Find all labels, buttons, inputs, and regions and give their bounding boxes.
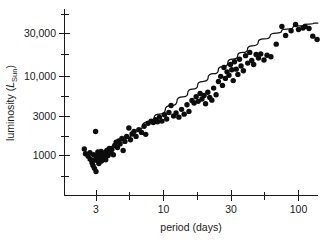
data-point — [133, 134, 138, 139]
data-point — [293, 22, 298, 27]
data-point — [238, 63, 243, 68]
y-axis-title-prefix: luminosity ( — [4, 87, 16, 141]
data-point — [221, 65, 226, 70]
y-axis-title-suffix: ) — [4, 65, 16, 69]
x-tick-label-30: 30 — [225, 203, 237, 215]
data-point — [122, 139, 127, 144]
y-tick-label-30000: 30,000 — [24, 27, 56, 39]
svg-text:luminosity (LSun): luminosity (LSun) — [4, 65, 19, 141]
y-tick-label-10000: 10,000 — [24, 70, 56, 82]
y-tick-label-3000: 3000 — [33, 110, 57, 122]
data-point — [220, 83, 225, 88]
data-point — [237, 56, 242, 61]
x-tick-label-3: 3 — [93, 203, 99, 215]
data-point — [181, 111, 186, 116]
data-point — [247, 50, 252, 55]
data-point — [251, 62, 256, 67]
data-point — [310, 33, 315, 38]
data-point — [231, 78, 236, 83]
data-point — [126, 125, 131, 130]
data-point — [164, 116, 169, 121]
data-point — [131, 129, 136, 134]
data-point — [128, 137, 133, 142]
data-point — [93, 169, 98, 174]
x-tick-label-100: 100 — [290, 203, 308, 215]
data-point — [216, 79, 221, 84]
data-point — [209, 97, 214, 102]
period-luminosity-figure: 30,000 10,000 3000 1000 3 10 30 100 peri… — [0, 0, 323, 242]
data-point — [314, 37, 319, 42]
data-point — [186, 109, 191, 114]
y-tick-label-1000: 1000 — [33, 149, 57, 161]
data-point — [166, 110, 171, 115]
data-point — [258, 51, 263, 56]
data-point — [205, 89, 210, 94]
scatter-points — [82, 22, 320, 174]
data-point — [226, 72, 231, 77]
x-axis-title: period (days) — [160, 221, 221, 233]
y-axis-title: luminosity (LSun) — [4, 65, 19, 141]
data-point — [232, 59, 237, 64]
data-point — [283, 33, 288, 38]
data-point — [261, 57, 266, 62]
data-point — [179, 107, 184, 112]
data-point — [211, 85, 216, 90]
x-tick-label-10: 10 — [158, 203, 170, 215]
chart-canvas: 30,000 10,000 3000 1000 3 10 30 100 peri… — [0, 0, 323, 242]
data-point — [82, 146, 87, 151]
data-point — [176, 114, 181, 119]
data-point — [117, 141, 122, 146]
data-point — [234, 66, 239, 71]
data-point — [120, 148, 125, 153]
data-point — [235, 72, 240, 77]
data-point — [241, 68, 246, 73]
data-point — [143, 132, 148, 137]
data-point — [279, 24, 284, 29]
data-point — [274, 41, 279, 46]
data-point — [306, 26, 311, 31]
data-point — [159, 118, 164, 123]
data-point — [218, 74, 223, 79]
data-point — [268, 54, 273, 59]
data-point — [184, 102, 189, 107]
data-point — [213, 92, 218, 97]
data-point — [168, 103, 173, 108]
data-point — [93, 129, 98, 134]
data-point — [203, 101, 208, 106]
data-point — [288, 28, 293, 33]
y-axis-title-subscript: Sun — [10, 69, 19, 82]
data-point — [111, 152, 116, 157]
